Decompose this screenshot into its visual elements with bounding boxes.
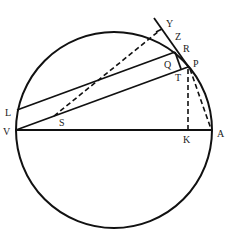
label-k: K <box>183 134 191 145</box>
label-p: P <box>193 58 199 69</box>
label-v: V <box>3 126 11 137</box>
geometry-diagram: Y Z R P Q T L V S K A <box>0 0 236 248</box>
label-r: R <box>183 43 190 54</box>
label-l: L <box>5 107 11 118</box>
label-t: T <box>175 72 181 83</box>
chord-vp <box>16 67 188 130</box>
label-y: Y <box>166 18 173 29</box>
dashed-sy <box>54 31 159 116</box>
segment-y-tick <box>156 29 162 32</box>
label-q: Q <box>164 59 172 70</box>
label-z: Z <box>175 31 181 42</box>
label-s: S <box>59 117 65 128</box>
label-a: A <box>217 128 225 139</box>
